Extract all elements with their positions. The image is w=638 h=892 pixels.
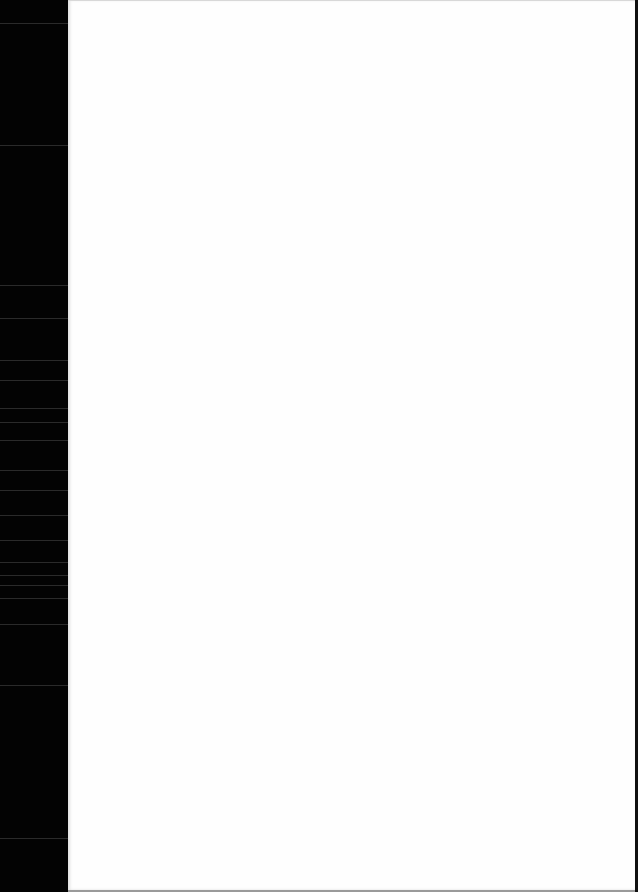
scan-streak (0, 380, 68, 381)
scanner-bed-edge (0, 0, 69, 892)
scan-streak (0, 490, 68, 491)
scan-streak (0, 685, 68, 686)
scan-streak (0, 624, 68, 625)
scan-streak (0, 360, 68, 361)
scan-streak (0, 408, 68, 409)
blank-page (68, 0, 635, 890)
scan-streak (0, 540, 68, 541)
scan-streak (0, 318, 68, 319)
scan-streak (0, 422, 68, 423)
scan-streak (0, 285, 68, 286)
scan-streak (0, 145, 68, 146)
scan-streak (0, 23, 68, 24)
scan-streak (0, 575, 68, 576)
page-top-edge (68, 0, 638, 1)
scan-streak (0, 440, 68, 441)
scan-streak (0, 585, 68, 586)
scan-streak (0, 838, 68, 839)
scan-streak (0, 562, 68, 563)
scan-streak (0, 470, 68, 471)
scan-streak (0, 598, 68, 599)
scan-streak (0, 515, 68, 516)
